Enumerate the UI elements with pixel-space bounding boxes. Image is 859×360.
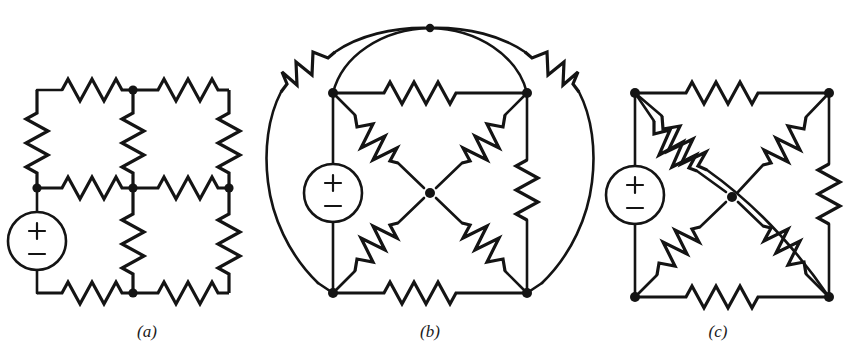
wire-b-left-arc-upper	[335, 28, 430, 52]
resistor-c-diag-br	[763, 226, 806, 274]
wire-b-right-arc-upper	[430, 28, 525, 52]
panel-c-circuit	[606, 82, 840, 308]
node-c-top-left	[630, 88, 640, 98]
voltage-source-c	[606, 166, 664, 224]
node-b-centre	[425, 188, 435, 198]
wire-b-diag-tl-end	[398, 163, 424, 188]
panel-caption-b: (b)	[400, 322, 460, 342]
resistor-b-diag-bl	[355, 223, 398, 271]
resistor-c-diag-bl	[657, 227, 700, 275]
node-b-bottom-right	[522, 288, 532, 298]
resistor-b-diag-br	[462, 223, 505, 271]
resistor-c-top-edge	[635, 82, 829, 104]
panel-caption-a: (a)	[117, 322, 177, 342]
node-c-bottom-left	[630, 292, 640, 302]
resistor-a-right-upper	[218, 90, 240, 188]
wire-c-diag-tr-end	[738, 165, 763, 192]
figure-root: (a) (b) (c)	[0, 0, 859, 360]
node-c-top-right	[824, 88, 834, 98]
node-a-bottom-centre	[128, 288, 137, 297]
wire-b-right-arc-lower	[542, 92, 593, 283]
panel-caption-c: (c)	[688, 322, 748, 342]
resistor-a-left-upper	[26, 90, 48, 188]
resistor-a-right-lower	[218, 188, 240, 293]
node-a-middle-left	[32, 183, 41, 192]
wire-b-diag-br-end	[436, 198, 462, 223]
node-b-bottom-left	[328, 288, 338, 298]
resistor-b-top-edge	[333, 82, 527, 104]
resistor-b-left-arc	[281, 52, 335, 92]
resistor-b-bottom-edge	[333, 282, 527, 304]
resistor-a-bottom-right	[133, 282, 229, 304]
resistor-a-top-right	[133, 79, 229, 101]
node-a-middle-right	[224, 183, 233, 192]
resistor-a-middle-right	[133, 177, 229, 199]
panel-b-circuit	[267, 24, 594, 304]
resistor-c-diag-tr	[763, 117, 806, 165]
node-a-top-centre	[128, 85, 137, 94]
node-b-apex	[426, 24, 434, 32]
node-c-centre	[727, 192, 737, 202]
resistor-a-centre-lower	[122, 188, 144, 293]
resistor-a-top-left	[62, 79, 133, 101]
resistor-a-centre-upper	[122, 90, 144, 188]
wire-b-diag-bl-end	[398, 198, 424, 223]
resistor-c-bottom-edge	[635, 286, 829, 308]
wire-b-diag-tr-end	[436, 163, 462, 188]
resistor-b-right-arc	[525, 52, 579, 92]
circuit-diagram-canvas	[0, 0, 859, 360]
wire-c-diag-bl-end	[700, 202, 726, 227]
node-a-middle-centre	[128, 183, 137, 192]
node-b-top-right	[522, 88, 532, 98]
resistor-a-bottom-left	[37, 282, 133, 304]
resistor-b-right-edge	[516, 160, 538, 220]
voltage-source-b	[304, 164, 362, 222]
resistor-a-middle-left	[37, 177, 133, 199]
resistor-c-right-edge	[818, 164, 840, 224]
resistor-b-diag-tl	[355, 115, 398, 163]
resistor-b-diag-tr	[462, 115, 505, 163]
voltage-source-a	[8, 212, 66, 270]
node-b-top-left	[328, 88, 338, 98]
panel-a-circuit	[8, 79, 240, 304]
node-c-bottom-right	[824, 292, 834, 302]
